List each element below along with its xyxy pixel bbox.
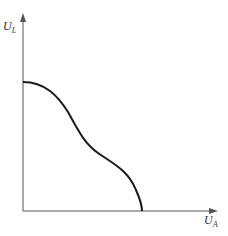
y-axis-arrow-icon	[20, 13, 26, 22]
frontier-curve	[23, 82, 142, 211]
diagram-canvas	[0, 0, 228, 236]
y-axis-subscript: L	[12, 26, 16, 35]
x-axis-label: UA	[204, 214, 218, 229]
y-axis-symbol: U	[3, 19, 12, 33]
x-axis-subscript: A	[213, 220, 218, 229]
x-axis-symbol: U	[204, 213, 213, 227]
y-axis-label: UL	[3, 20, 16, 35]
